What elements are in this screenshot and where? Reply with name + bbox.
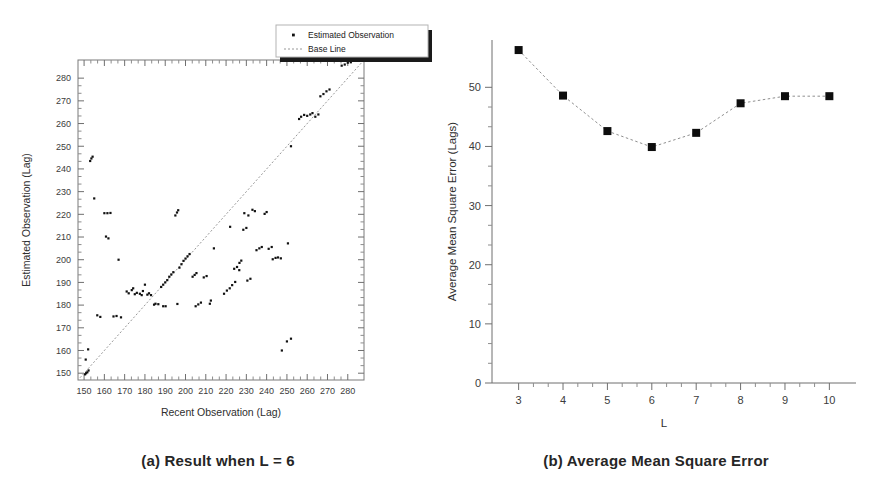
scatter-point (172, 271, 174, 273)
scatter-point (195, 305, 197, 307)
x-tick-label: 250 (279, 386, 294, 396)
scatter-point (154, 303, 156, 305)
scatter-point (186, 255, 188, 257)
scatter-point (251, 209, 253, 211)
data-point-marker (692, 129, 700, 137)
scatter-point (231, 284, 233, 286)
scatter-point (322, 93, 324, 95)
scatter-point (112, 315, 114, 317)
x-tick-label: 8 (738, 394, 744, 406)
estimated-observation-series (84, 61, 352, 375)
scatter-point (311, 112, 313, 114)
scatter-point (277, 256, 279, 258)
scatter-point (197, 303, 199, 305)
scatter-point (280, 257, 282, 259)
y-tick-label: 180 (56, 300, 71, 310)
base-line-series (80, 62, 362, 377)
x-tick-label: 280 (340, 386, 355, 396)
x-tick-label: 5 (604, 394, 610, 406)
y-tick-label: 280 (56, 73, 71, 83)
figure-container: 1501601701801902002102202302402502602702… (0, 0, 876, 501)
scatter-point (150, 294, 152, 296)
scatter-point (162, 284, 164, 286)
scatter-point (92, 156, 94, 158)
y-axis-title: Average Mean Square Error (Lags) (446, 122, 458, 302)
y-tick-label: 30 (469, 200, 481, 212)
y-tick-label: 0 (475, 377, 481, 389)
x-tick-label: 9 (782, 394, 788, 406)
scatter-point (255, 249, 257, 251)
scatter-point (258, 247, 260, 249)
scatter-point (303, 114, 305, 116)
scatter-point (195, 272, 197, 274)
scatter-point (314, 116, 316, 118)
scatter-point (236, 266, 238, 268)
scatter-point (106, 212, 108, 214)
scatter-point (96, 314, 98, 316)
panel-b-svg: 34567891001020304050LAverage Mean Square… (436, 0, 876, 445)
x-tick-label: 160 (97, 386, 112, 396)
scatter-point (290, 338, 292, 340)
scatter-point (115, 315, 117, 317)
panel-b-line: 34567891001020304050LAverage Mean Square… (436, 0, 876, 501)
scatter-point (166, 279, 168, 281)
scatter-point (223, 293, 225, 295)
scatter-point (272, 258, 274, 260)
scatter-point (103, 212, 105, 214)
scatter-point (200, 302, 202, 304)
scatter-point (274, 257, 276, 259)
scatter-point (328, 88, 330, 90)
scatter-point (177, 209, 179, 211)
panel-a-caption: (a) Result when L = 6 (0, 452, 436, 469)
data-point-marker (825, 92, 833, 100)
scatter-point (182, 260, 184, 262)
panel-b-caption: (b) Average Mean Square Error (436, 452, 876, 469)
x-tick-label: 3 (516, 394, 522, 406)
y-tick-label: 220 (56, 210, 71, 220)
x-tick-label: 180 (137, 386, 152, 396)
data-point-marker (515, 46, 523, 54)
scatter-point (226, 289, 228, 291)
y-tick-label: 260 (56, 119, 71, 129)
scatter-point (233, 268, 235, 270)
scatter-point (319, 95, 321, 97)
scatter-point (266, 211, 268, 213)
scatter-point (141, 294, 143, 296)
scatter-point (128, 292, 130, 294)
scatter-point (234, 281, 236, 283)
y-axis-title: Estimated Observation (Lag) (20, 153, 32, 287)
scatter-point (242, 229, 244, 231)
y-tick-label: 150 (56, 368, 71, 378)
x-tick-label: 170 (117, 386, 132, 396)
x-tick-label: 190 (158, 386, 173, 396)
scatter-point (178, 267, 180, 269)
panel-a-svg: 1501601701801902002102202302402502602702… (0, 0, 436, 445)
scatter-point (89, 160, 91, 162)
scatter-point (180, 263, 182, 265)
scatter-point (271, 246, 273, 248)
y-tick-label: 240 (56, 164, 71, 174)
panel-a-scatter: 1501601701801902002102202302402502602702… (0, 0, 436, 501)
x-tick-label: 10 (823, 394, 835, 406)
y-tick-label: 210 (56, 232, 71, 242)
y-tick-label: 250 (56, 142, 71, 152)
scatter-point (134, 293, 136, 295)
legend-marker-dot (292, 34, 295, 37)
y-tick-label: 40 (469, 140, 481, 152)
scatter-point (290, 145, 292, 147)
scatter-point (99, 316, 101, 318)
x-tick-label: 6 (649, 394, 655, 406)
y-tick-label: 20 (469, 259, 481, 271)
scatter-point (229, 287, 231, 289)
scatter-point (243, 212, 245, 214)
x-tick-label: 240 (259, 386, 274, 396)
scatter-point (238, 269, 240, 271)
scatter-point (213, 247, 215, 249)
scatter-point (210, 299, 212, 301)
scatter-point (157, 303, 159, 305)
scatter-point (229, 226, 231, 228)
scatter-point (309, 113, 311, 115)
y-tick-label: 170 (56, 323, 71, 333)
scatter-point (87, 369, 89, 371)
scatter-point (170, 273, 172, 275)
